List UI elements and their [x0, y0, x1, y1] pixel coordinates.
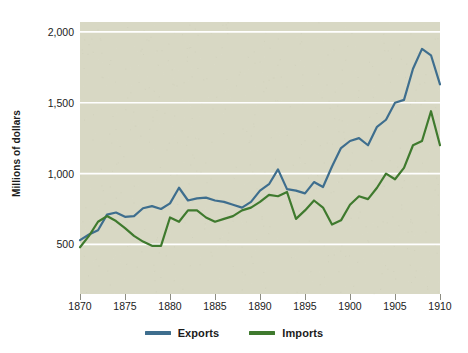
x-tick-label: 1875: [113, 300, 136, 312]
chart-legend: ExportsImports: [0, 327, 468, 339]
x-tick-label: 1890: [248, 300, 271, 312]
y-tick-label: 2,000: [32, 26, 74, 38]
legend-label: Imports: [282, 327, 323, 339]
x-tick-label: 1870: [68, 300, 91, 312]
legend-item-exports[interactable]: Exports: [145, 327, 220, 339]
y-axis-ticks: 5001,0001,5002,000: [26, 0, 74, 353]
legend-swatch-icon: [145, 331, 171, 335]
y-tick-label: 1,000: [32, 168, 74, 180]
legend-label: Exports: [178, 327, 220, 339]
x-tick-label: 1905: [383, 300, 406, 312]
x-tick-label: 1880: [158, 300, 181, 312]
x-tick-label: 1910: [428, 300, 451, 312]
y-tick-label: 1,500: [32, 97, 74, 109]
x-tick-label: 1885: [203, 300, 226, 312]
chart-figure: Millions of dollars 5001,0001,5002,000 1…: [0, 0, 468, 353]
legend-item-imports[interactable]: Imports: [249, 327, 323, 339]
y-tick-label: 500: [32, 238, 74, 250]
plot-background: [80, 22, 440, 294]
x-tick-label: 1895: [293, 300, 316, 312]
x-tick-label: 1900: [338, 300, 361, 312]
legend-swatch-icon: [249, 331, 275, 335]
